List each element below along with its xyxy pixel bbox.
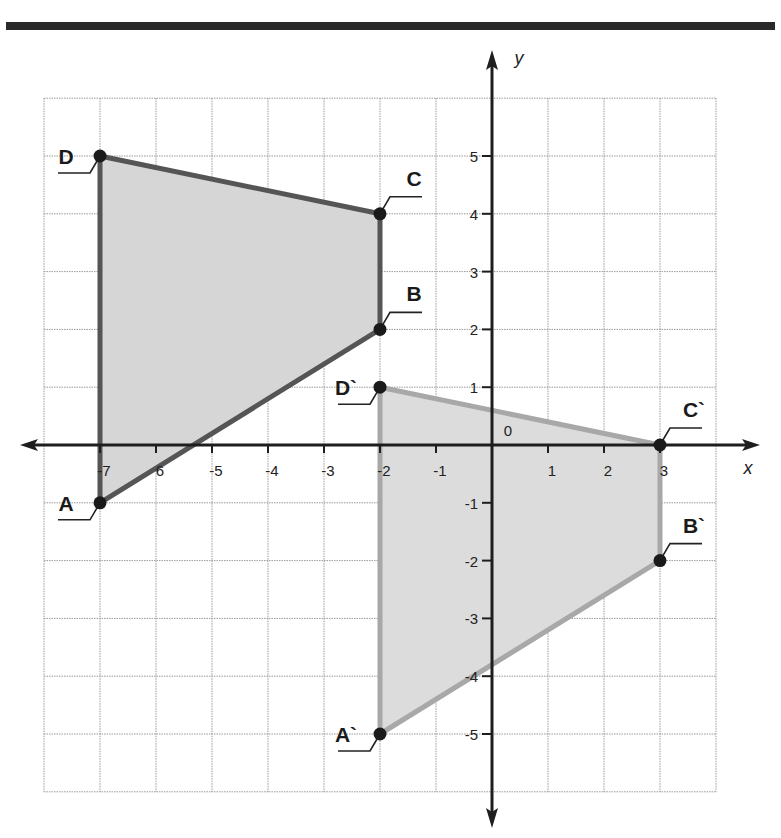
y-axis-label: y [513, 48, 525, 68]
x-tick-label: -4 [265, 462, 278, 479]
point-label-a-prime: A` [335, 723, 357, 746]
x-tick-label: 6 [156, 462, 164, 479]
x-tick-label: 1 [548, 462, 556, 479]
vertex-point [374, 323, 387, 336]
y-tick-label: -1 [465, 495, 478, 512]
vertex-point [374, 381, 387, 394]
y-tick-label: -2 [465, 553, 478, 570]
y-tick-label: 1 [470, 379, 478, 396]
vertex-point [94, 496, 107, 509]
x-axis-label: x [743, 458, 754, 478]
point-label-c: C [406, 167, 421, 190]
x-tick-label: 2 [604, 462, 612, 479]
leader-line [660, 428, 702, 445]
x-tick-label: -3 [321, 462, 334, 479]
vertex-point [654, 554, 667, 567]
y-tick-label: 3 [470, 264, 478, 281]
y-tick-label: -5 [465, 726, 478, 743]
x-tick-label: -5 [209, 462, 222, 479]
y-tick-label: 5 [470, 148, 478, 165]
coordinate-plane: -76-5-4-3-2-112354321-1-2-3-4-50xyABCDA`… [0, 0, 781, 838]
point-label-d-prime: D` [335, 376, 357, 399]
x-tick-label: -1 [433, 462, 446, 479]
leader-line [380, 197, 422, 214]
y-tick-label: -4 [465, 668, 478, 685]
vertex-point [374, 207, 387, 220]
vertex-point [654, 439, 667, 452]
point-label-b: B [406, 282, 421, 305]
vertex-point [374, 728, 387, 741]
y-tick-label: 4 [470, 206, 478, 223]
x-tick-label: -7 [97, 462, 110, 479]
vertex-point [94, 150, 107, 163]
point-label-a: A [58, 492, 73, 515]
y-tick-label: 2 [470, 321, 478, 338]
polygon-abcd [380, 387, 660, 734]
point-label-c-prime: C` [683, 398, 705, 421]
leader-line [380, 312, 422, 329]
x-tick-label: -2 [377, 462, 390, 479]
leader-line [660, 544, 702, 561]
origin-label: 0 [504, 422, 512, 439]
x-tick-label: 3 [660, 462, 668, 479]
point-label-d: D [58, 145, 73, 168]
point-label-b-prime: B` [683, 514, 705, 537]
polygon-abcd [100, 156, 380, 503]
y-tick-label: -3 [465, 610, 478, 627]
